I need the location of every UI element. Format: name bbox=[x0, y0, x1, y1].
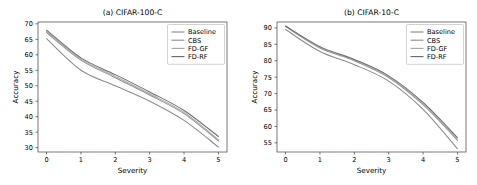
chart-a-ytick-label: 55 bbox=[25, 67, 33, 75]
chart-b-ytick-label: 80 bbox=[263, 57, 271, 65]
chart-b-ytick-label: 65 bbox=[263, 106, 271, 114]
chart-a-ytick-label: 60 bbox=[25, 51, 33, 59]
chart-b-xtick-label: 2 bbox=[352, 156, 356, 164]
chart-b-xtick-label: 0 bbox=[283, 156, 287, 164]
chart-a-ytick-label: 35 bbox=[25, 129, 33, 137]
chart-b-svg: (b) CIFAR-10-C0123455560657075808590Seve… bbox=[239, 0, 477, 185]
chart-a-ytick-label: 45 bbox=[25, 98, 33, 106]
chart-a-xlabel: Severity bbox=[118, 166, 148, 175]
chart-a-xtick-label: 5 bbox=[216, 156, 220, 164]
chart-b-ytick-label: 90 bbox=[263, 24, 271, 32]
chart-b-legend-label-fd-rf: FD-RF bbox=[427, 53, 447, 61]
figure-container: (a) CIFAR-100-C012345303540455055606570S… bbox=[0, 0, 477, 185]
chart-a-legend-label-fd-gf: FD-GF bbox=[188, 45, 209, 53]
chart-b-xtick-label: 3 bbox=[386, 156, 390, 164]
chart-a-legend-label-baseline: Baseline bbox=[188, 28, 216, 36]
chart-panel-b: (b) CIFAR-10-C0123455560657075808590Seve… bbox=[239, 0, 477, 185]
chart-a-plot-group: (a) CIFAR-100-C012345303540455055606570S… bbox=[11, 8, 227, 175]
chart-b-xtick-label: 5 bbox=[455, 156, 459, 164]
chart-b-legend-label-cbs: CBS bbox=[427, 37, 440, 45]
chart-b-ytick-label: 60 bbox=[263, 123, 271, 131]
chart-panel-a: (a) CIFAR-100-C012345303540455055606570S… bbox=[0, 0, 239, 185]
chart-b-xlabel: Severity bbox=[356, 166, 386, 175]
chart-a-legend-label-cbs: CBS bbox=[188, 37, 201, 45]
chart-b-ytick-label: 85 bbox=[263, 41, 271, 49]
chart-b-xtick-label: 1 bbox=[317, 156, 321, 164]
chart-b-xtick-label: 4 bbox=[420, 156, 424, 164]
chart-a-ytick-label: 70 bbox=[25, 20, 33, 28]
chart-a-xtick-label: 4 bbox=[182, 156, 186, 164]
chart-a-xtick-label: 2 bbox=[113, 156, 117, 164]
chart-b-title: (b) CIFAR-10-C bbox=[344, 8, 399, 17]
chart-b-plot-group: (b) CIFAR-10-C0123455560657075808590Seve… bbox=[250, 8, 466, 175]
chart-a-title: (a) CIFAR-100-C bbox=[103, 8, 163, 17]
chart-a-xtick-label: 3 bbox=[148, 156, 152, 164]
chart-b-ylabel: Accuracy bbox=[250, 70, 259, 104]
chart-b-ytick-label: 55 bbox=[263, 139, 271, 147]
chart-a-ytick-label: 65 bbox=[25, 36, 33, 44]
chart-b-legend-label-fd-gf: FD-GF bbox=[427, 45, 448, 53]
chart-a-svg: (a) CIFAR-100-C012345303540455055606570S… bbox=[0, 0, 239, 185]
chart-a-ylabel: Accuracy bbox=[11, 70, 20, 104]
chart-a-legend-label-fd-rf: FD-RF bbox=[188, 53, 208, 61]
chart-b-legend-label-baseline: Baseline bbox=[427, 28, 455, 36]
chart-a-ytick-label: 30 bbox=[25, 144, 33, 152]
chart-b-ytick-label: 70 bbox=[263, 90, 271, 98]
chart-a-ytick-label: 40 bbox=[25, 113, 33, 121]
chart-b-ytick-label: 75 bbox=[263, 74, 271, 82]
chart-a-ytick-label: 50 bbox=[25, 82, 33, 90]
chart-a-xtick-label: 0 bbox=[44, 156, 48, 164]
chart-a-xtick-label: 1 bbox=[79, 156, 83, 164]
